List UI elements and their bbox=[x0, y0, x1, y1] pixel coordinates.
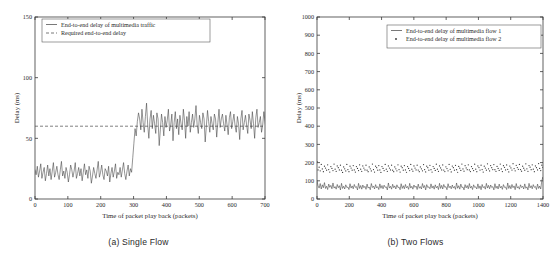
data-point bbox=[524, 170, 525, 171]
data-point bbox=[488, 168, 489, 169]
data-point bbox=[429, 165, 430, 166]
data-point bbox=[484, 166, 485, 167]
data-point bbox=[448, 164, 449, 165]
legend-label: End-to-end delay of multimedia flow 2 bbox=[406, 36, 501, 42]
data-point bbox=[526, 168, 527, 169]
data-point bbox=[423, 164, 424, 165]
data-point bbox=[349, 166, 350, 167]
data-point bbox=[552, 168, 553, 169]
data-point bbox=[406, 172, 407, 173]
y-tick-label: 150 bbox=[23, 13, 32, 20]
data-point bbox=[422, 170, 423, 171]
data-point bbox=[360, 169, 361, 170]
data-point bbox=[502, 171, 503, 172]
data-point bbox=[342, 172, 343, 173]
data-point bbox=[359, 164, 360, 165]
data-point bbox=[452, 165, 453, 166]
data-point bbox=[402, 167, 403, 168]
data-point bbox=[410, 164, 411, 165]
data-point bbox=[490, 165, 491, 166]
data-point bbox=[362, 165, 363, 166]
series-group bbox=[316, 102, 554, 190]
x-tick-label: 300 bbox=[129, 201, 138, 208]
data-point bbox=[457, 172, 458, 173]
data-point bbox=[340, 165, 341, 166]
data-point bbox=[407, 166, 408, 167]
data-point bbox=[492, 169, 493, 170]
data-point bbox=[456, 169, 457, 170]
data-point bbox=[366, 170, 367, 171]
data-point bbox=[515, 170, 516, 171]
data-point bbox=[451, 171, 452, 172]
x-tick-label: 0 bbox=[33, 201, 36, 208]
data-point bbox=[443, 169, 444, 170]
data-point bbox=[390, 169, 391, 170]
series-path bbox=[317, 141, 554, 190]
data-point bbox=[378, 165, 379, 166]
data-point bbox=[541, 165, 542, 166]
data-point bbox=[325, 167, 326, 168]
y-tick-label: 900 bbox=[305, 31, 314, 38]
data-point bbox=[434, 168, 435, 169]
data-point bbox=[533, 169, 534, 170]
x-tick-label: 600 bbox=[228, 201, 237, 208]
data-point bbox=[529, 167, 530, 168]
data-point bbox=[374, 171, 375, 172]
data-point bbox=[375, 166, 376, 167]
data-point bbox=[453, 167, 454, 168]
x-tick-label: 1200 bbox=[505, 201, 517, 208]
data-point bbox=[413, 165, 414, 166]
data-point bbox=[441, 169, 442, 170]
data-point bbox=[387, 171, 388, 172]
data-point bbox=[473, 170, 474, 171]
data-point bbox=[545, 169, 546, 170]
caption-panel-a: (a) Single Flow bbox=[0, 237, 277, 247]
data-point bbox=[534, 171, 535, 172]
data-point bbox=[343, 166, 344, 167]
data-point bbox=[548, 165, 549, 166]
data-point bbox=[479, 169, 480, 170]
data-point bbox=[537, 169, 538, 170]
x-axis-title: Time of packet play back (packets) bbox=[382, 212, 477, 220]
data-point bbox=[354, 169, 355, 170]
data-point bbox=[507, 169, 508, 170]
data-point bbox=[379, 169, 380, 170]
data-point bbox=[471, 166, 472, 167]
data-point bbox=[431, 171, 432, 172]
data-point bbox=[392, 170, 393, 171]
caption-panel-b: (b) Two Flows bbox=[277, 237, 554, 247]
data-point bbox=[493, 164, 494, 165]
data-point bbox=[385, 164, 386, 165]
panel-single-flow: 0100200300400500600700050100150Time of p… bbox=[0, 0, 277, 267]
data-point bbox=[415, 169, 416, 170]
data-point bbox=[377, 170, 378, 171]
data-point bbox=[331, 168, 332, 169]
data-point bbox=[328, 169, 329, 170]
data-point bbox=[491, 167, 492, 168]
data-point bbox=[421, 168, 422, 169]
data-point bbox=[472, 168, 473, 169]
y-tick-label: 50 bbox=[26, 135, 32, 142]
data-point bbox=[321, 164, 322, 165]
data-point bbox=[345, 170, 346, 171]
x-tick-label: 200 bbox=[96, 201, 105, 208]
data-point bbox=[462, 168, 463, 169]
x-tick-label: 400 bbox=[377, 201, 386, 208]
data-point bbox=[409, 170, 410, 171]
data-point bbox=[426, 166, 427, 167]
data-point bbox=[461, 163, 462, 164]
data-point bbox=[352, 170, 353, 171]
data-point bbox=[458, 166, 459, 167]
data-point bbox=[440, 167, 441, 168]
data-point bbox=[486, 170, 487, 171]
data-point bbox=[419, 171, 420, 172]
data-point bbox=[358, 170, 359, 171]
data-point bbox=[499, 170, 500, 171]
data-point bbox=[468, 164, 469, 165]
y-axis-title: Delay (ms) bbox=[295, 93, 303, 123]
data-point bbox=[397, 164, 398, 165]
data-point bbox=[506, 164, 507, 165]
data-point bbox=[357, 168, 358, 169]
data-point bbox=[339, 169, 340, 170]
x-tick-label: 0 bbox=[315, 201, 318, 208]
